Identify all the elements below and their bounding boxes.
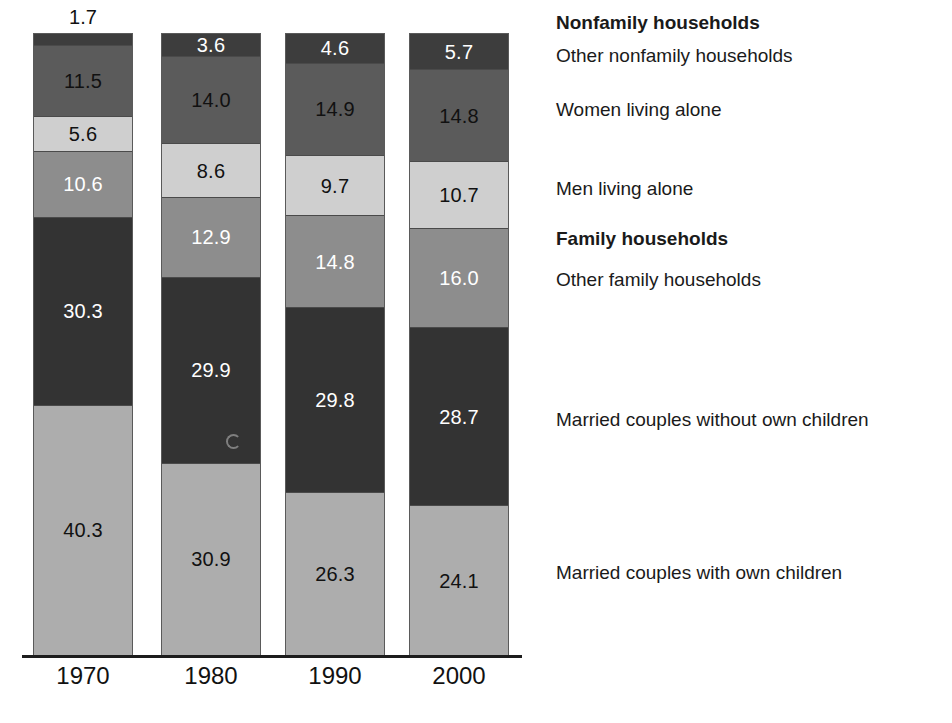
segment-value-label: 14.8 [315,252,355,272]
bar-segment-1980-2[interactable]: 8.6 [162,143,260,196]
bar-segment-2000-5[interactable]: 24.1 [410,505,508,655]
bar-segment-1990-2[interactable]: 9.7 [286,155,384,215]
bar-segment-1990-1[interactable]: 14.9 [286,63,384,155]
bar-segment-1980-3[interactable]: 12.9 [162,197,260,277]
bar-1980[interactable]: 3.614.08.612.929.930.9 [161,33,261,655]
legend-item-0[interactable]: Nonfamily households [556,12,760,34]
segment-value-label: 14.8 [439,106,479,126]
legend-item-6[interactable]: Married couples without own children [556,409,869,431]
outside-value-label-1970: 1.7 [33,6,133,29]
plot-area: 11.55.610.630.340.31.719703.614.08.612.9… [0,0,540,723]
segment-value-label: 26.3 [315,564,355,584]
bar-segment-1980-0[interactable]: 3.6 [162,34,260,56]
bar-segment-1970-2[interactable]: 5.6 [34,116,132,151]
segment-value-label: 3.6 [197,35,225,55]
legend-item-5[interactable]: Other family households [556,269,761,291]
bar-1970[interactable]: 11.55.610.630.340.3 [33,33,133,655]
segment-value-label: 40.3 [63,520,103,540]
segment-value-label: 28.7 [439,407,479,427]
segment-value-label: 29.9 [191,360,231,380]
bar-segment-1970-3[interactable]: 10.6 [34,151,132,217]
scan-artifact [226,434,241,449]
bar-segment-1970-4[interactable]: 30.3 [34,217,132,405]
bar-segment-2000-0[interactable]: 5.7 [410,34,508,69]
segment-value-label: 5.7 [445,42,473,62]
legend-item-1[interactable]: Other nonfamily households [556,45,793,67]
bar-segment-1980-4[interactable]: 29.9 [162,277,260,463]
legend-item-7[interactable]: Married couples with own children [556,562,842,584]
segment-value-label: 16.0 [439,268,479,288]
segment-value-label: 24.1 [439,571,479,591]
segment-value-label: 5.6 [69,124,97,144]
x-axis-tick-1970: 1970 [33,662,133,690]
x-axis-tick-2000: 2000 [409,662,509,690]
bar-segment-2000-2[interactable]: 10.7 [410,161,508,227]
segment-value-label: 9.7 [321,176,349,196]
segment-value-label: 12.9 [191,227,231,247]
segment-value-label: 8.6 [197,161,225,181]
x-axis-tick-1980: 1980 [161,662,261,690]
bar-segment-1970-0[interactable] [34,34,132,45]
bar-segment-1990-5[interactable]: 26.3 [286,492,384,655]
x-axis-tick-1990: 1990 [285,662,385,690]
x-axis-line [22,655,522,658]
legend-item-4[interactable]: Family households [556,228,728,250]
bar-2000[interactable]: 5.714.810.716.028.724.1 [409,33,509,655]
bar-segment-1990-4[interactable]: 29.8 [286,307,384,492]
stacked-bar-chart: 11.55.610.630.340.31.719703.614.08.612.9… [0,0,952,723]
segment-value-label: 10.6 [63,174,103,194]
bar-segment-1970-5[interactable]: 40.3 [34,405,132,655]
segment-value-label: 30.3 [63,301,103,321]
bar-segment-1980-1[interactable]: 14.0 [162,56,260,143]
segment-value-label: 14.9 [315,99,355,119]
bar-1990[interactable]: 4.614.99.714.829.826.3 [285,33,385,655]
segment-value-label: 29.8 [315,390,355,410]
bar-segment-2000-1[interactable]: 14.8 [410,69,508,161]
segment-value-label: 30.9 [191,549,231,569]
bar-segment-1980-5[interactable]: 30.9 [162,463,260,655]
segment-value-label: 14.0 [191,90,231,110]
legend-item-3[interactable]: Men living alone [556,178,693,200]
bar-segment-2000-4[interactable]: 28.7 [410,327,508,505]
bar-segment-1990-3[interactable]: 14.8 [286,215,384,307]
segment-value-label: 11.5 [64,71,102,91]
bar-segment-2000-3[interactable]: 16.0 [410,228,508,327]
bar-segment-1970-1[interactable]: 11.5 [34,45,132,116]
segment-value-label: 4.6 [321,38,349,58]
legend-item-2[interactable]: Women living alone [556,99,721,121]
bar-segment-1990-0[interactable]: 4.6 [286,34,384,63]
segment-value-label: 10.7 [439,185,479,205]
chart-legend: Nonfamily householdsOther nonfamily hous… [556,0,952,723]
